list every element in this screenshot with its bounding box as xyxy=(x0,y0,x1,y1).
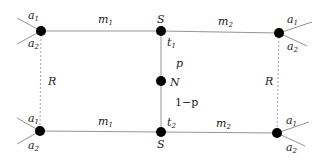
label-m2-top: m xyxy=(218,15,228,28)
node-bot-s xyxy=(156,127,166,137)
svg-text:a2: a2 xyxy=(28,37,40,51)
edge-bot-right xyxy=(161,132,277,133)
svg-text:m2: m2 xyxy=(218,15,233,29)
svg-text:a1: a1 xyxy=(286,114,297,128)
edge-bot-left xyxy=(40,131,161,132)
label-m1-top: m xyxy=(98,13,108,26)
label-p: p xyxy=(176,57,183,70)
network-diagram: a1 a2 a1 a2 a1 a2 a1 a2 S t1 N t2 S m1 m… xyxy=(0,0,324,164)
nodes xyxy=(35,26,284,138)
svg-text:m1: m1 xyxy=(98,115,113,129)
label-m2-bot: m xyxy=(216,117,226,130)
label-s-bottom: S xyxy=(157,138,165,151)
svg-text:a1: a1 xyxy=(28,112,39,126)
svg-text:m1: m1 xyxy=(98,13,113,27)
node-top-s xyxy=(156,26,166,36)
node-top-right xyxy=(274,28,284,38)
label-m1-bot: m xyxy=(98,115,108,128)
svg-text:a2: a2 xyxy=(287,40,299,54)
svg-text:a1: a1 xyxy=(28,9,39,23)
label-1-minus-p: 1−p xyxy=(175,96,198,109)
label-r-right: R xyxy=(264,75,273,88)
edge-left-dashed xyxy=(40,31,41,131)
node-top-left xyxy=(36,26,46,36)
edge-top-right xyxy=(161,31,279,33)
label-r-left: R xyxy=(47,75,56,88)
svg-text:t2: t2 xyxy=(167,116,176,130)
node-bot-right xyxy=(272,128,282,138)
label-s-top: S xyxy=(157,13,165,26)
svg-text:a2: a2 xyxy=(28,139,40,153)
label-n: N xyxy=(169,76,180,89)
svg-text:m2: m2 xyxy=(216,117,231,131)
svg-text:a2: a2 xyxy=(286,141,298,155)
node-bot-left xyxy=(35,126,45,136)
node-n xyxy=(156,76,166,86)
edge-right-dashed xyxy=(277,33,279,133)
svg-text:a1: a1 xyxy=(287,13,298,27)
svg-text:t1: t1 xyxy=(167,36,176,50)
